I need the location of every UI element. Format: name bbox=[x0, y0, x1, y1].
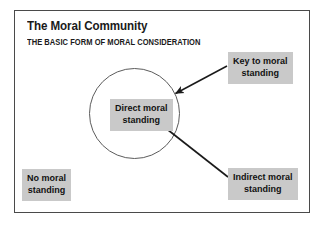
label-key-line1: Key to moral bbox=[233, 56, 288, 68]
label-direct-moral-standing: Direct moral standing bbox=[110, 99, 173, 131]
label-none-line1: No moral bbox=[27, 173, 66, 185]
label-indirect-line2: standing bbox=[233, 184, 293, 196]
label-direct-line2: standing bbox=[115, 115, 168, 127]
direct-to-indirect-line bbox=[163, 126, 228, 177]
label-no-moral-standing: No moral standing bbox=[22, 169, 71, 201]
label-indirect-moral-standing: Indirect moral standing bbox=[228, 168, 298, 200]
label-indirect-line1: Indirect moral bbox=[233, 172, 293, 184]
label-key-line2: standing bbox=[233, 68, 288, 80]
key-to-circle-arrow bbox=[176, 66, 228, 94]
label-none-line2: standing bbox=[27, 185, 66, 197]
label-direct-line1: Direct moral bbox=[115, 103, 168, 115]
label-key-to-moral-standing: Key to moral standing bbox=[228, 52, 293, 84]
moral-community-diagram: The Moral Community THE BASIC FORM OF MO… bbox=[0, 0, 324, 225]
